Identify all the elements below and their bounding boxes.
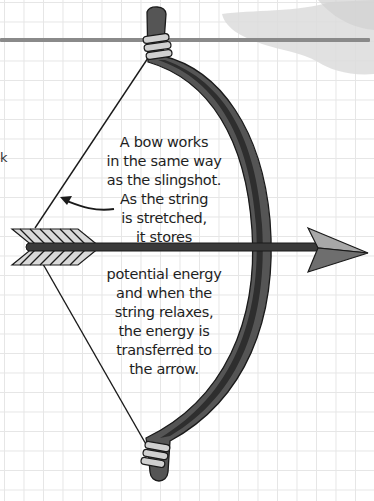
horizontal-line: [0, 38, 370, 42]
caption-line: As the string: [84, 190, 244, 209]
caption-line: transferred to: [82, 341, 246, 360]
caption-top: A bow works in the same way as the sling…: [84, 133, 244, 247]
caption-line: string relaxes,: [82, 303, 246, 322]
caption-line: is stretched,: [84, 209, 244, 228]
caption-line: in the same way: [84, 152, 244, 171]
cropped-text-fragment: k: [0, 150, 8, 165]
top-grip-wraps: [143, 33, 173, 60]
caption-line: A bow works: [84, 133, 244, 152]
caption-line: the arrow.: [82, 360, 246, 379]
caption-line: as the slingshot.: [84, 171, 244, 190]
caption-line: and when the: [82, 284, 246, 303]
arrowhead: [308, 228, 368, 272]
caption-bottom: potential energy and when the string rel…: [82, 265, 246, 379]
bow-arrow-illustration: [0, 0, 374, 501]
caption-line: it stores: [84, 228, 244, 247]
caption-line: the energy is: [82, 322, 246, 341]
caption-line: potential energy: [82, 265, 246, 284]
